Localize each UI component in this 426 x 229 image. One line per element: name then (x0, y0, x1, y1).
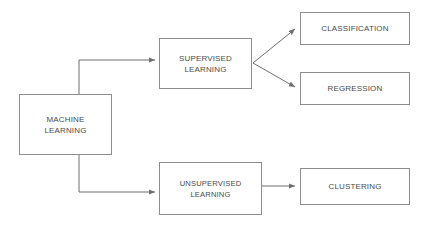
edge-supervised-to-classification (253, 29, 295, 63)
node-clustering[interactable]: CLUSTERING (300, 168, 410, 205)
edge-ml-to-supervised (79, 60, 155, 94)
node-unsupervised-learning-label: UNSUPERVISED LEARNING (180, 178, 242, 200)
node-supervised-learning-label: SUPERVISED LEARNING (179, 53, 232, 75)
node-classification-label: CLASSIFICATION (321, 23, 388, 34)
node-clustering-label: CLUSTERING (328, 181, 381, 192)
node-regression-label: REGRESSION (328, 83, 383, 94)
node-machine-learning-label: MACHINE LEARNING (44, 114, 86, 136)
edge-ml-to-unsupervised (79, 155, 155, 192)
node-machine-learning[interactable]: MACHINE LEARNING (19, 94, 112, 155)
node-unsupervised-learning[interactable]: UNSUPERVISED LEARNING (159, 162, 262, 215)
node-classification[interactable]: CLASSIFICATION (300, 12, 410, 45)
edge-supervised-to-regression (253, 63, 295, 87)
node-supervised-learning[interactable]: SUPERVISED LEARNING (159, 38, 252, 89)
node-regression[interactable]: REGRESSION (300, 72, 410, 105)
ml-taxonomy-diagram: MACHINE LEARNING SUPERVISED LEARNING UNS… (0, 0, 426, 229)
